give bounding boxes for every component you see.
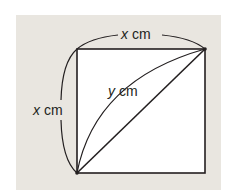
diagram-canvas: x cm x cm y cm	[0, 0, 233, 192]
top-label: x cm	[120, 26, 151, 42]
top-dimension-arc-left	[77, 35, 118, 49]
vertex-dot-top-right	[203, 47, 207, 51]
vertex-dot-bottom-left	[75, 171, 79, 175]
curve-label: y cm	[107, 83, 138, 99]
left-dimension-arc-bottom	[61, 120, 77, 173]
top-dimension-arc-right	[162, 35, 205, 49]
left-label: x cm	[32, 102, 63, 118]
left-dimension-arc-top	[61, 49, 77, 100]
